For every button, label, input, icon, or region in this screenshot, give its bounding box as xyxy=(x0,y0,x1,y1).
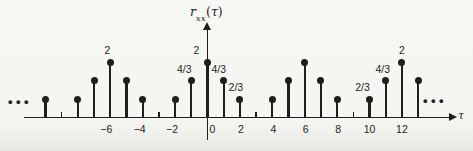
stem-dot xyxy=(334,96,341,103)
stem-dot xyxy=(188,77,195,84)
stem-dot xyxy=(301,59,308,66)
stem xyxy=(320,81,322,118)
autocorrelation-stem-figure: rxx(τ) τ ••• ••• −6−4−202468101224/324/3… xyxy=(0,0,473,151)
stem xyxy=(109,62,111,118)
zero-tick xyxy=(158,112,160,119)
zero-tick xyxy=(255,112,257,119)
stem-dot xyxy=(366,96,373,103)
stem-dot xyxy=(107,59,114,66)
x-tick-label: 6 xyxy=(294,123,318,136)
stem xyxy=(190,81,192,118)
stem-plot: −6−4−202468101224/324/32/32/34/32 xyxy=(0,0,473,151)
stem xyxy=(304,62,306,118)
x-tick-label: −4 xyxy=(128,123,152,136)
stem-dot xyxy=(91,77,98,84)
x-tick-label: 12 xyxy=(390,123,414,136)
stem-dot xyxy=(285,77,292,84)
stem-dot xyxy=(123,77,130,84)
x-tick-label: 2 xyxy=(229,123,253,136)
stem xyxy=(385,81,387,118)
value-label: 2 xyxy=(183,44,211,57)
stem xyxy=(401,62,403,118)
stem-dot xyxy=(74,96,81,103)
stem-dot xyxy=(139,96,146,103)
zero-tick xyxy=(353,112,355,119)
value-label: 2 xyxy=(388,44,416,57)
x-tick-label: 4 xyxy=(261,123,285,136)
stem-dot xyxy=(382,77,389,84)
stem-dot xyxy=(415,77,422,84)
value-label: 2 xyxy=(93,44,121,57)
stem xyxy=(93,81,95,118)
value-label: 4/3 xyxy=(369,63,397,76)
stem xyxy=(125,81,127,118)
stem xyxy=(417,81,419,118)
x-tick-label: 8 xyxy=(326,123,350,136)
x-tick-label: −2 xyxy=(160,123,184,136)
value-label: 4/3 xyxy=(170,63,198,76)
x-tick-label: 0 xyxy=(201,123,225,136)
stem-dot xyxy=(398,59,405,66)
stem-dot xyxy=(42,96,49,103)
stem-dot xyxy=(317,77,324,84)
x-tick-label: 10 xyxy=(358,123,382,136)
stem xyxy=(287,81,289,118)
x-tick-label: −6 xyxy=(94,123,118,136)
value-label: 2/3 xyxy=(222,81,250,94)
stem-dot xyxy=(269,96,276,103)
zero-tick xyxy=(61,112,63,119)
stem-dot xyxy=(236,96,243,103)
value-label: 2/3 xyxy=(349,81,377,94)
stem-dot xyxy=(172,96,179,103)
value-label: 4/3 xyxy=(205,63,233,76)
